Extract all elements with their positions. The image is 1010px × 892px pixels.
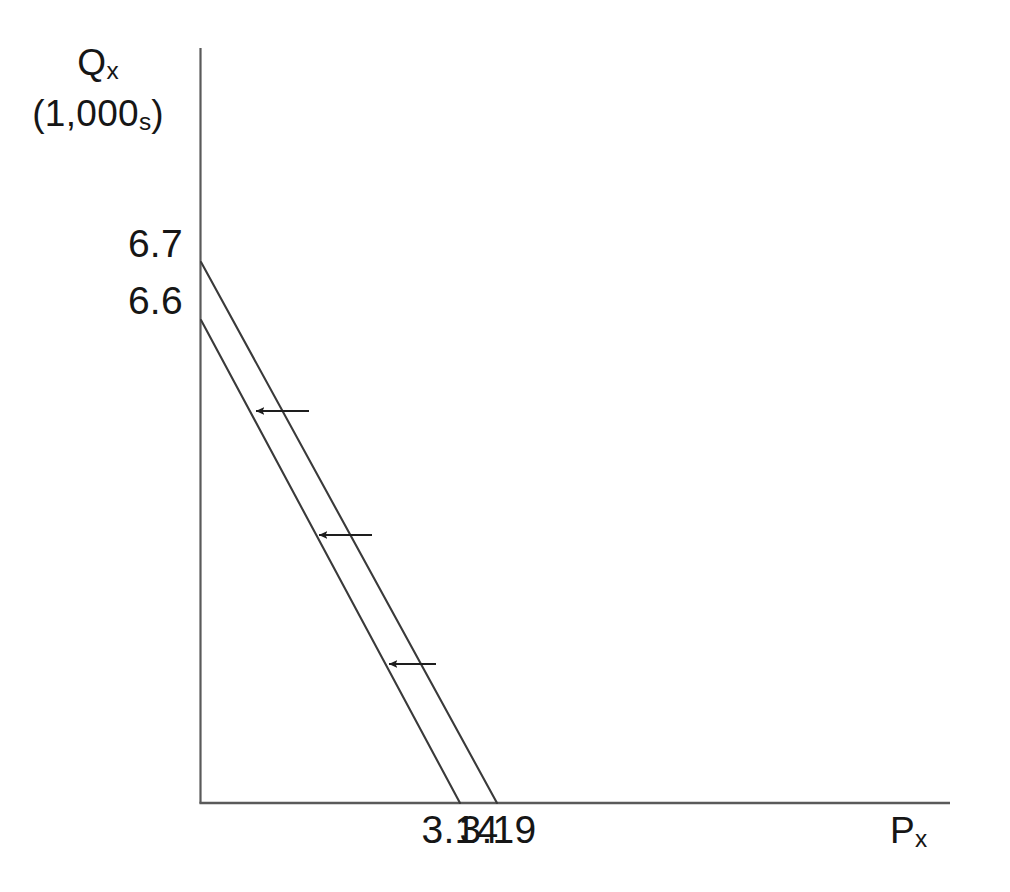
demand-curve-original (201, 262, 497, 803)
y-axis-title-main: Q (77, 42, 106, 83)
x-axis-title: Px (890, 812, 927, 849)
y-axis-title: Qx (1,000s) (0, 44, 196, 132)
y-axis-units-subscript: s (139, 108, 151, 135)
x-axis-title-subscript: x (915, 825, 927, 852)
y-axis-title-subscript: x (106, 57, 118, 84)
y-tick-label-upper: 6.7 (128, 224, 183, 263)
demand-curve-figure: Qx (1,000s) 6.7 6.6 3.14 3.19 Px (0, 0, 1010, 892)
y-axis-units-open: (1,000 (32, 93, 139, 134)
demand-curve-shifted (201, 320, 460, 803)
y-tick-label-lower: 6.6 (128, 281, 183, 320)
y-axis-units-close: ) (151, 93, 164, 134)
x-tick-label-right: 3.19 (430, 810, 566, 849)
x-axis-title-main: P (890, 810, 915, 851)
